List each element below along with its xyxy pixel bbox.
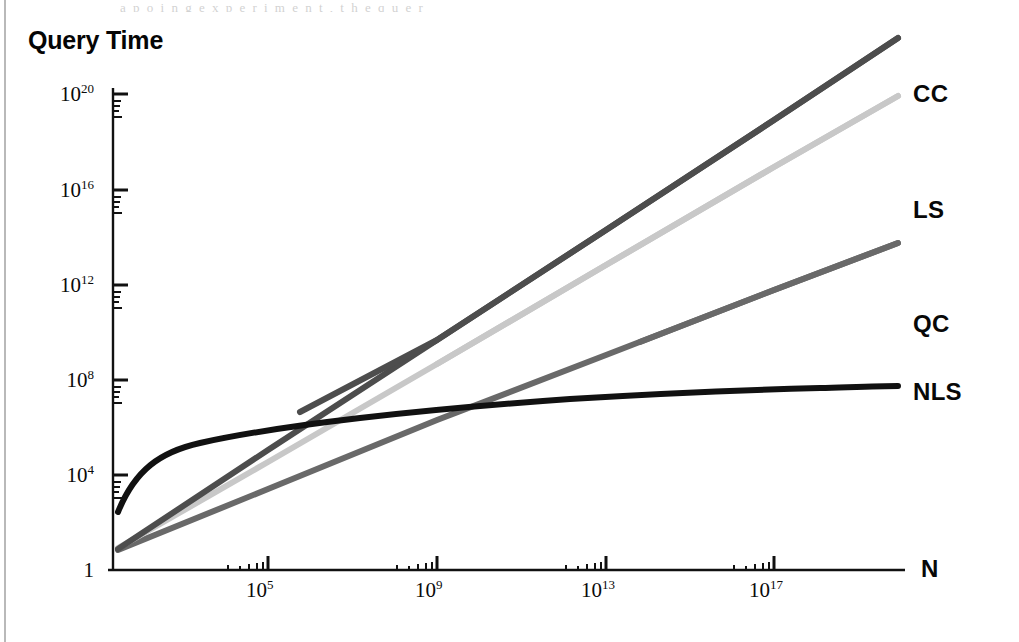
series-label-nls: NLS bbox=[913, 378, 962, 406]
series-label-qc: QC bbox=[913, 310, 950, 338]
series-label-ls: LS bbox=[913, 196, 944, 224]
query-time-chart: 1020 1016 1012 108 104 1 105 109 1013 10… bbox=[0, 0, 1019, 642]
y-tick-label-1e4: 104 bbox=[20, 463, 94, 488]
y-tick-label-1e20: 1020 bbox=[20, 82, 94, 107]
x-tick-label-1e5: 105 bbox=[246, 578, 274, 603]
x-tick-label-1e9: 109 bbox=[415, 578, 443, 603]
x-axis-name: N bbox=[921, 555, 938, 583]
series-line-ls-top bbox=[437, 96, 898, 364]
series-line-nls bbox=[118, 386, 898, 512]
x-axis bbox=[108, 556, 905, 570]
y-tick-label-1e16: 1016 bbox=[20, 178, 94, 203]
chart-canvas bbox=[0, 0, 1019, 642]
figure-page: a p o i n g e x p e r i m e n t , t h e … bbox=[0, 0, 1019, 642]
x-tick-label-1e13: 1013 bbox=[581, 578, 615, 603]
y-tick-label-1: 1 bbox=[20, 558, 94, 583]
y-tick-label-1e8: 108 bbox=[20, 368, 94, 393]
y-tick-label-1e12: 1012 bbox=[20, 273, 94, 298]
x-tick-label-1e17: 1017 bbox=[749, 578, 783, 603]
series-line-qc-top bbox=[640, 243, 898, 342]
series-label-cc: CC bbox=[913, 80, 948, 108]
